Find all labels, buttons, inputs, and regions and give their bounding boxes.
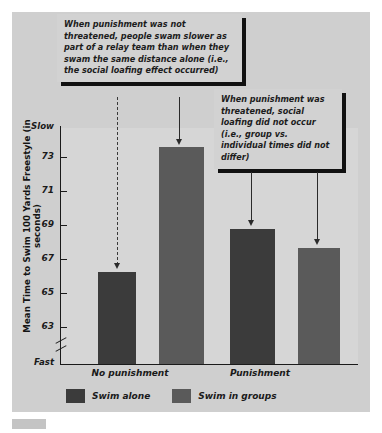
annotation-text-no-punishment: When punishment was not threatened, peop… (57, 14, 242, 82)
bar-no-punishment-swim-in-groups (159, 147, 204, 364)
x-category-label-no-punishment: No punishment (75, 368, 185, 378)
figure-root: Slow 73 71 69 67 65 63 Fast Mean Time to… (0, 0, 382, 433)
legend-swatch-swim-in-groups (172, 389, 191, 403)
annotation-box-punishment: When punishment was threatened, social l… (214, 89, 342, 169)
y-axis-bottom-label: Fast (8, 357, 54, 367)
bar-punishment-swim-in-groups (298, 248, 340, 364)
legend-item-swim-in-groups: Swim in groups (172, 389, 276, 403)
x-axis-line (60, 364, 358, 365)
bar-no-punishment-swim-alone (98, 272, 136, 364)
annotation-box-no-punishment: When punishment was not threatened, peop… (57, 14, 242, 82)
legend: Swim alone Swim in groups (66, 389, 299, 403)
y-axis-title: Mean Time to Swim 100 Yards Freestyle (i… (22, 116, 42, 336)
legend-label-swim-alone: Swim alone (92, 391, 150, 401)
page-corner-tab (12, 419, 46, 429)
legend-swatch-swim-alone (66, 389, 85, 403)
bar-punishment-swim-alone (230, 229, 275, 364)
x-category-label-punishment: Punishment (205, 368, 315, 378)
legend-label-swim-in-groups: Swim in groups (198, 391, 276, 401)
annotation-text-punishment: When punishment was threatened, social l… (214, 89, 342, 169)
legend-item-swim-alone: Swim alone (66, 389, 150, 403)
